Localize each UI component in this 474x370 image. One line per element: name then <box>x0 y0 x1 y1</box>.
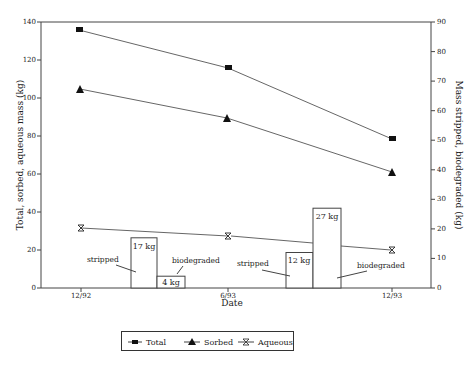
x-tick: 12/93 <box>382 292 402 300</box>
y-tick: 20 <box>27 246 36 254</box>
y2-axis-title: Mass stripped, biodegraded (kg) <box>454 81 464 230</box>
bar-value: 27 kg <box>316 212 339 221</box>
bar-value: 4 kg <box>162 278 180 287</box>
legend-label: Total <box>146 338 167 347</box>
bar-value: 17 kg <box>133 242 156 251</box>
series-sorbed <box>76 85 396 176</box>
y-tick: 120 <box>23 56 36 64</box>
y2-tick: 60 <box>437 107 446 115</box>
series-total <box>76 27 396 141</box>
x-tick: 12/92 <box>71 292 91 300</box>
x-axis-ticks <box>81 288 392 292</box>
y-tick: 80 <box>27 132 36 140</box>
legend-item-total: Total <box>128 338 167 347</box>
left-axis-ticks <box>37 22 41 288</box>
annotation-stripped: stripped <box>237 259 269 268</box>
bars <box>131 208 341 288</box>
y2-tick: 30 <box>437 195 446 203</box>
y2-tick: 50 <box>437 136 446 144</box>
y-tick: 0 <box>32 284 36 292</box>
bar-value: 12 kg <box>288 256 311 265</box>
y2-tick: 90 <box>437 18 446 26</box>
legend-item-aqueous: Aqueous <box>238 338 293 347</box>
y2-tick: 80 <box>437 48 446 56</box>
y2-tick: 40 <box>437 166 446 174</box>
chart: 0 20 40 60 80 100 120 140 0 10 20 30 40 … <box>0 0 474 370</box>
legend-item-sorbed: Sorbed <box>184 338 233 347</box>
annotation-biodegraded: biodegraded <box>357 261 405 270</box>
legend-label: Aqueous <box>257 338 293 347</box>
y2-tick: 70 <box>437 77 446 85</box>
right-axis-labels: 0 10 20 30 40 50 60 70 80 90 <box>437 18 446 292</box>
y-tick: 140 <box>23 18 36 26</box>
y-tick: 60 <box>27 170 36 178</box>
legend-label: Sorbed <box>204 338 233 347</box>
x-axis-title: Date <box>221 298 243 308</box>
legend: Total Sorbed Aqueous <box>121 331 294 351</box>
y-axis-title: Total, sorbed, aqueous mass (kg) <box>15 80 25 230</box>
y2-tick: 20 <box>437 225 446 233</box>
square-marker-icon <box>132 340 138 344</box>
y2-tick: 0 <box>437 284 441 292</box>
annotation-biodegraded: biodegraded <box>172 256 220 265</box>
y2-tick: 10 <box>437 254 446 262</box>
right-axis-ticks <box>431 22 435 288</box>
y-tick: 40 <box>27 208 36 216</box>
annotation-stripped: stripped <box>87 255 119 264</box>
series-aqueous <box>78 225 395 253</box>
